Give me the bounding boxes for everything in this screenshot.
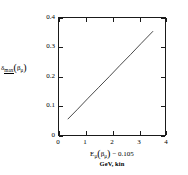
x-axis-title: Eμ(βμ)− 0.105 GeV, kin (58, 150, 166, 169)
xtick-label-0: 0 (50, 138, 66, 146)
ytick-mark-right-0 (161, 136, 165, 137)
xtick-label-4: 4 (158, 138, 174, 146)
series-line-delta-max (68, 31, 153, 119)
xtick-mark-top-3 (140, 18, 141, 22)
ytick-mark-0p1 (59, 106, 63, 107)
figure-container: 0 1 2 3 4 0 0.1 0.2 0.3 0.4 δmax(βμ) Eμ(… (0, 0, 188, 175)
xtick-label-3: 3 (131, 138, 147, 146)
y-axis-max-subscript: max (4, 67, 13, 74)
xtick-label-2: 2 (104, 138, 120, 146)
xtick-mark-2 (113, 131, 114, 135)
x-axis-paren-close: ) (107, 148, 110, 159)
x-axis-title-line1: Eμ(βμ)− 0.105 (90, 150, 134, 158)
xtick-mark-3 (140, 131, 141, 135)
ytick-label-0: 0 (37, 131, 55, 139)
x-axis-title-tail: − 0.105 (112, 150, 133, 158)
xtick-mark-4 (166, 131, 167, 135)
ytick-mark-0p4 (59, 18, 63, 19)
ytick-label-0p4: 0.4 (37, 13, 55, 21)
ytick-mark-right-0p1 (161, 106, 165, 107)
ytick-mark-right-0p4 (161, 18, 165, 19)
ytick-mark-0p3 (59, 47, 63, 48)
xtick-mark-top-4 (166, 18, 167, 22)
ytick-label-0p1: 0.1 (37, 101, 55, 109)
xtick-mark-0 (59, 131, 60, 135)
xtick-mark-top-2 (113, 18, 114, 22)
ytick-mark-right-0p3 (161, 47, 165, 48)
ytick-label-0p3: 0.3 (37, 42, 55, 50)
xtick-mark-top-1 (86, 18, 87, 22)
ytick-mark-right-0p2 (161, 77, 165, 78)
ytick-mark-0p2 (59, 77, 63, 78)
xtick-mark-1 (86, 131, 87, 135)
y-axis-title: δmax(βμ) (1, 64, 55, 75)
xtick-label-1: 1 (77, 138, 93, 146)
y-axis-paren-close: ) (23, 62, 26, 73)
x-axis-units-label: GeV, kin (58, 160, 166, 169)
plot-frame (58, 17, 166, 136)
data-line-svg (59, 18, 165, 135)
ytick-mark-0 (59, 136, 63, 137)
